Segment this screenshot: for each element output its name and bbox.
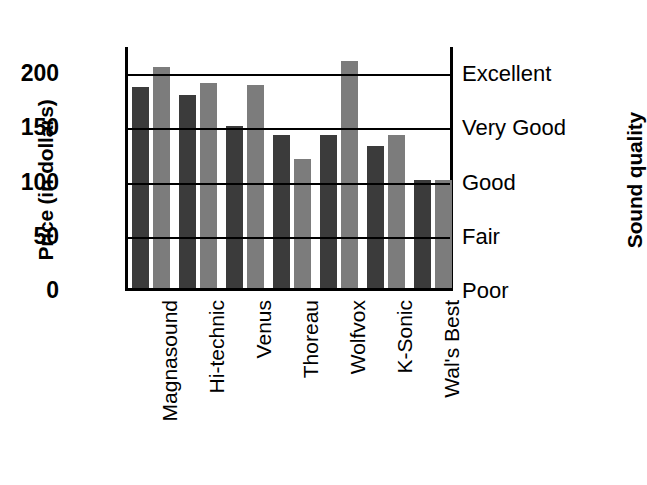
bar-wal-s-best-price: [414, 180, 431, 288]
bar-venus-sound-quality: [247, 85, 264, 288]
plot-area: [125, 47, 453, 291]
x-category-label-wolfvox: Wolfvox: [346, 300, 370, 374]
x-category-label-k-sonic: K-Sonic: [393, 300, 417, 374]
bar-wolfvox-sound-quality: [341, 61, 358, 288]
y2-tick-label-fair: Fair: [462, 226, 500, 248]
y2-tick-label-poor: Poor: [462, 280, 508, 302]
y-tick-label-100: 100: [0, 171, 59, 194]
x-category-label-hi-technic: Hi-technic: [205, 300, 229, 393]
bar-hi-technic-sound-quality: [200, 83, 217, 288]
y2-tick-label-good: Good: [462, 172, 516, 194]
bar-hi-technic-price: [179, 95, 196, 288]
y2-tick-label-very-good: Very Good: [462, 117, 566, 139]
gridline-50: [128, 237, 450, 239]
x-category-label-magnasound: Magnasound: [158, 300, 182, 421]
bar-wal-s-best-sound-quality: [435, 180, 452, 288]
y-axis-title-right: Sound quality: [623, 55, 647, 305]
bar-magnasound-price: [132, 87, 149, 288]
bar-wolfvox-price: [320, 135, 337, 288]
bar-k-sonic-sound-quality: [388, 135, 405, 288]
y2-tick-label-excellent: Excellent: [462, 63, 551, 85]
bar-venus-price: [226, 126, 243, 288]
y-tick-label-50: 50: [0, 225, 59, 248]
bar-thoreau-price: [273, 135, 290, 288]
gridline-100: [128, 183, 450, 185]
x-category-label-wal-s-best: Wal's Best: [440, 300, 464, 398]
x-category-label-thoreau: Thoreau: [299, 300, 323, 378]
gridline-150: [128, 128, 450, 130]
x-category-label-venus: Venus: [252, 300, 276, 358]
bar-thoreau-sound-quality: [294, 159, 311, 288]
gridline-200: [128, 74, 450, 76]
y-tick-label-150: 150: [0, 116, 59, 139]
y-tick-label-0: 0: [0, 279, 59, 302]
bar-k-sonic-price: [367, 146, 384, 288]
bar-magnasound-sound-quality: [153, 67, 170, 288]
y-tick-label-200: 200: [0, 62, 59, 85]
